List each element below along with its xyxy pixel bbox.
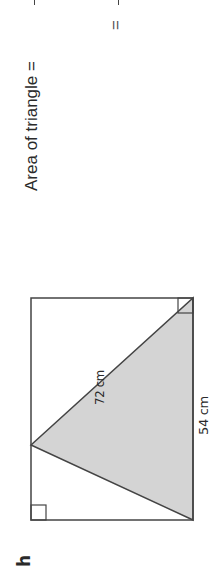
shaded-triangle: [31, 298, 193, 520]
dimension-label-side: 54 cm: [196, 396, 211, 435]
answer-line[interactable]: [118, 0, 119, 5]
right-angle-marker-icon: [31, 505, 46, 520]
equals-sign: =: [106, 20, 126, 30]
area-of-triangle-label: Area of triangle =: [22, 61, 42, 191]
answer-line[interactable]: [34, 0, 35, 5]
dimension-label-top: 72 cm: [92, 370, 107, 405]
worksheet-page: h 72 cm 54 cm Area of triangle = =: [0, 0, 216, 575]
